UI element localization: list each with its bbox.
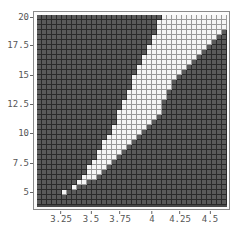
x-tick-label: 4: [149, 211, 154, 224]
y-tick-label: 20: [18, 13, 33, 22]
x-tick-label: 3.5: [83, 211, 99, 224]
region-plot: [37, 15, 227, 207]
x-tick-label: 4.5: [202, 211, 218, 224]
x-tick-label: 3.25: [50, 211, 72, 224]
y-tick-label: 5: [24, 188, 33, 197]
x-tick-label: 4.25: [169, 211, 191, 224]
y-tick-label: 17.5: [7, 41, 33, 50]
x-tick-label: 3.75: [109, 211, 131, 224]
y-tick-label: 12.5: [7, 100, 33, 109]
region-cell-false: [222, 200, 227, 205]
y-tick-label: 10: [18, 129, 33, 138]
y-tick-label: 7.5: [13, 159, 33, 168]
y-tick-label: 15: [18, 71, 33, 80]
